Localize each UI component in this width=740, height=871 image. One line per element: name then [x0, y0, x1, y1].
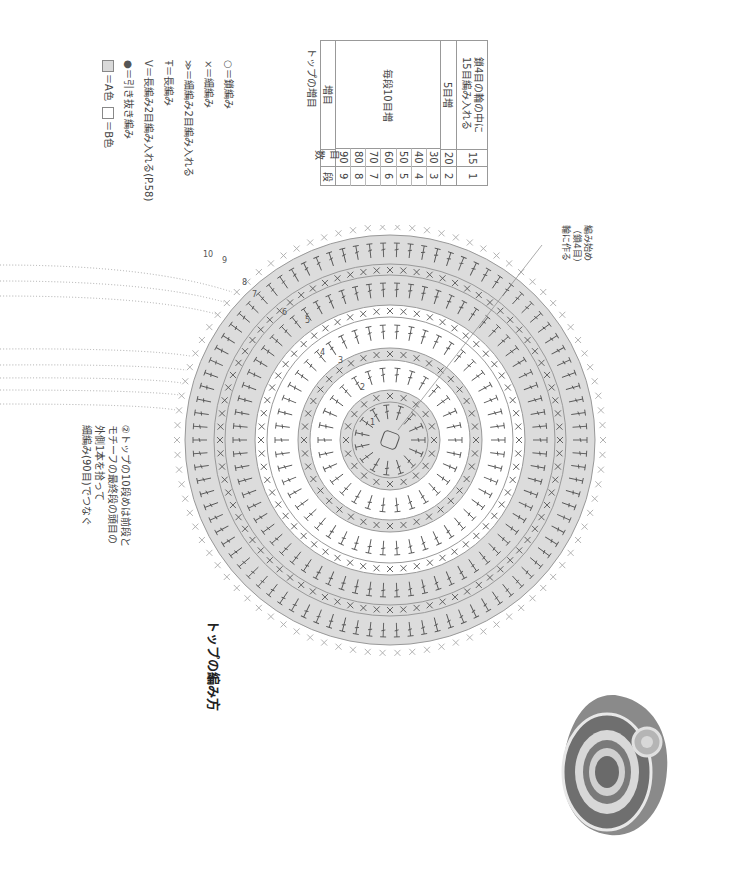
slip-stitch-icon: ●	[121, 60, 135, 69]
header-count: 目数	[321, 149, 335, 166]
legend-label: ＝細編み2目編み入れる	[183, 70, 194, 176]
table-row: 50 5	[397, 148, 412, 186]
double-crochet-increase-icon: V	[141, 60, 155, 67]
legend-colors: ＝A色 ＝B色	[101, 60, 115, 240]
legend-item-sc-increase: ≫＝細編み2目編み入れる	[181, 60, 195, 240]
table-row: 40 4	[412, 148, 427, 186]
row-cell: 7	[366, 166, 380, 186]
count-cell: 30	[427, 149, 441, 166]
svg-text:4: 4	[320, 348, 325, 357]
table-row-1: 鎖4目の輪の中に 15目編み入れる 15 1	[457, 40, 488, 186]
increase-note: 5目増	[441, 41, 456, 149]
row-cell: 6	[381, 166, 395, 186]
svg-text:9: 9	[222, 256, 227, 265]
chain-stitch-icon: ○	[221, 60, 235, 69]
svg-text:6: 6	[282, 308, 287, 317]
table-row-2: 5目増 20 2	[441, 40, 457, 186]
stitch-legend: ○＝鎖編み ×＝細編み ≫＝細編み2目編み入れる Ŧ＝長編み V＝長編み2目編み…	[95, 60, 235, 240]
count-cell: 60	[381, 149, 395, 166]
single-crochet-increase-icon: ≫	[181, 60, 195, 70]
table-row: 90 9	[336, 148, 351, 186]
row-cell: 2	[441, 166, 456, 186]
legend-label: ＝長編み	[163, 66, 174, 106]
table-row: 80 8	[351, 148, 366, 186]
rows-3-9-values: 90 9 80 8 70 7 60 6 50 5 40 4 30 3	[336, 148, 441, 186]
page-title: トップの編み方	[205, 620, 224, 711]
legend-item-dc-increase: V＝長編み2目編み入れる(P.58)	[141, 60, 155, 240]
legend-label: ＝鎖編み	[223, 69, 234, 109]
color-b-label: ＝B色	[103, 121, 114, 148]
svg-text:3: 3	[338, 356, 343, 365]
count-cell: 80	[351, 149, 365, 166]
count-cell: 90	[336, 149, 350, 166]
row-cell: 9	[336, 166, 350, 186]
count-cell: 40	[412, 149, 426, 166]
table-row: 70 7	[366, 148, 381, 186]
legend-label: ＝細編み	[203, 68, 214, 108]
legend-item-slip-stitch: ●＝引き抜き編み	[121, 60, 135, 240]
svg-text:1: 1	[370, 418, 375, 427]
legend-item-single-crochet: ×＝細編み	[201, 60, 215, 240]
increase-note: 鎖4目の輪の中に 15目編み入れる	[457, 41, 487, 149]
legend-label: ＝引き抜き編み	[123, 69, 134, 139]
legend-label: ＝長編み2目編み入れる(P.58)	[143, 67, 154, 202]
color-a-swatch	[102, 60, 114, 72]
increase-table: 目数 段 増目 毎段10目増 90 9 80 8 70 7 60 6 50 5 …	[320, 40, 488, 186]
row-cell: 3	[427, 166, 441, 186]
row-cell: 4	[412, 166, 426, 186]
color-a-label: ＝A色	[103, 74, 114, 101]
crochet-chart-top: 1 2 3 4 5 6 7 8 9 10	[170, 225, 610, 665]
increase-table-title: トップの増目	[305, 48, 320, 108]
header-row: 段	[321, 166, 335, 186]
start-note: 編み始め （鎖4目） 輪に作る	[560, 225, 593, 267]
legend-item-chain: ○＝鎖編み	[221, 60, 235, 240]
table-row: 30 3	[427, 148, 441, 186]
count-cell: 50	[397, 149, 411, 166]
increase-note: 毎段10目増	[336, 41, 440, 149]
color-b-swatch	[102, 107, 114, 119]
legend-item-double-crochet: Ŧ＝長編み	[161, 60, 175, 240]
svg-text:8: 8	[242, 278, 247, 287]
count-cell: 20	[441, 149, 456, 166]
svg-text:7: 7	[252, 290, 257, 299]
table-header-column: 目数 段 増目	[320, 40, 336, 186]
header-increase-label: 増目	[321, 41, 335, 149]
count-cell: 15	[457, 149, 487, 166]
count-cell: 70	[366, 149, 380, 166]
join-note: ②トップの10段めは前段と モチーフの最終段の頭目の 外側1本を拾って 細編み(…	[80, 425, 132, 547]
row-cell: 1	[457, 166, 487, 186]
svg-text:2: 2	[360, 383, 365, 392]
svg-text:10: 10	[203, 250, 213, 259]
row-cell: 5	[397, 166, 411, 186]
table-row: 60 6	[381, 148, 396, 186]
svg-text:5: 5	[305, 316, 310, 325]
row-cell: 8	[351, 166, 365, 186]
bag-photo	[555, 690, 675, 840]
